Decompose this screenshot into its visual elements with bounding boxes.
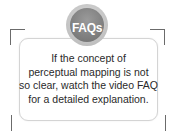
faq-badge-label: FAQs — [72, 21, 102, 35]
corner-bracket-top-left-v — [10, 29, 11, 45]
corner-bracket-top-right-v — [164, 29, 165, 45]
corner-bracket-bottom-right-v — [165, 115, 166, 131]
corner-bracket-top-right-h — [150, 29, 165, 30]
corner-bracket-top-left-h — [10, 29, 25, 30]
corner-bracket-bottom-left-v — [11, 115, 12, 131]
message-line: perceptual mapping is not — [19, 66, 158, 80]
faq-message: If the concept of perceptual mapping is … — [19, 52, 158, 106]
faq-badge-icon: FAQs — [70, 8, 104, 42]
message-line: If the concept of — [19, 52, 158, 66]
message-line: so clear, watch the video FAQ — [19, 79, 158, 93]
message-line: for a detailed explanation. — [19, 93, 158, 107]
